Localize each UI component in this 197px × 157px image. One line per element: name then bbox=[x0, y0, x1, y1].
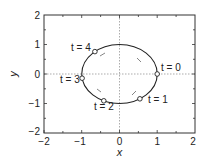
x-tick-label: 1 bbox=[154, 136, 160, 147]
point-t4 bbox=[93, 49, 98, 54]
arrow-icon bbox=[137, 58, 141, 62]
arrow-icon bbox=[100, 53, 105, 56]
arrow-icon bbox=[97, 89, 101, 92]
annotation-t2: t = 2 bbox=[94, 101, 114, 112]
point-t3 bbox=[80, 76, 85, 81]
y-tick-label: −2 bbox=[29, 126, 41, 137]
point-t0 bbox=[155, 72, 160, 77]
x-tick-label: −1 bbox=[74, 136, 86, 147]
arrow-icon bbox=[132, 91, 136, 95]
annotation-t3: t = 3 bbox=[60, 74, 80, 85]
point-t1 bbox=[138, 97, 143, 102]
chart: t = 0 t = 1 t = 2 t = 3 t = 4 bbox=[0, 0, 197, 157]
y-tick-label: 1 bbox=[34, 39, 40, 50]
x-axis-label: x bbox=[116, 146, 123, 157]
x-tick-label: −2 bbox=[38, 136, 50, 147]
x-tick-label: 2 bbox=[190, 136, 196, 147]
y-tick-label: 0 bbox=[34, 69, 40, 80]
y-axis-label: y bbox=[7, 70, 19, 78]
y-tick-label: −1 bbox=[29, 98, 41, 109]
annotation-t0: t = 0 bbox=[161, 62, 181, 73]
annotation-t4: t = 4 bbox=[71, 42, 91, 53]
y-tick-label: 2 bbox=[34, 10, 40, 21]
annotation-t1: t = 1 bbox=[148, 94, 168, 105]
